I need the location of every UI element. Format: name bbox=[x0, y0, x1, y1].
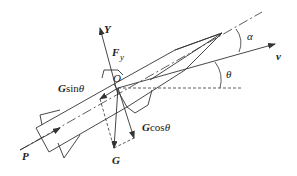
thrust-vector bbox=[20, 128, 60, 150]
g-sin-theta-label: Gsinθ bbox=[58, 82, 85, 94]
velocity-label: v bbox=[276, 50, 281, 62]
rocket-body bbox=[36, 33, 222, 158]
weight-vector bbox=[114, 88, 118, 148]
component-dash bbox=[100, 99, 114, 148]
g-cos-theta-label: Gcosθ bbox=[142, 121, 171, 133]
lift-label: F bbox=[111, 46, 120, 58]
thrust-label: P bbox=[22, 150, 29, 162]
alpha-label: α bbox=[247, 30, 253, 42]
weight-cos-vector bbox=[118, 88, 134, 138]
weight-label: G bbox=[112, 154, 120, 166]
theta-label: θ bbox=[226, 68, 232, 80]
y-axis bbox=[100, 28, 118, 95]
rocket-axis bbox=[20, 12, 262, 150]
theta-arc bbox=[215, 62, 221, 88]
y-axis-label: Y bbox=[104, 23, 112, 35]
weight-sin-vector bbox=[100, 88, 118, 99]
origin-label: O bbox=[113, 72, 121, 84]
component-dash bbox=[114, 138, 134, 148]
lift-subscript: y bbox=[119, 52, 124, 62]
alpha-arc bbox=[236, 29, 241, 52]
rocket-force-diagram: Y F y O Gsinθ Gcosθ G P v α θ bbox=[0, 0, 297, 176]
velocity-vector bbox=[118, 44, 275, 88]
